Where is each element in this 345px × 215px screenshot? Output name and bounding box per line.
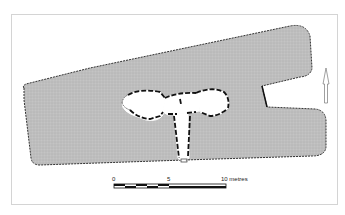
site-plan: 0 5 10 metres [0, 0, 345, 215]
scale-label-10: 10 metres [221, 176, 248, 182]
north-arrow-icon [323, 68, 329, 103]
scale-bar [114, 184, 226, 188]
scale-label-0: 0 [112, 176, 116, 182]
scale-label-5: 5 [167, 176, 171, 182]
